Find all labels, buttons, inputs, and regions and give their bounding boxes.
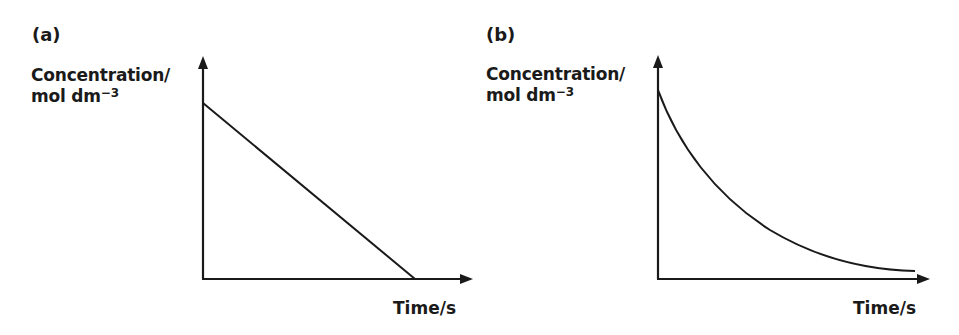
x-axis-arrow-icon (460, 274, 473, 284)
y-axis-arrow-icon (198, 56, 208, 69)
x-axis (202, 274, 473, 284)
x-axis-label: Time/s (853, 298, 916, 318)
y-axis-arrow-icon (653, 55, 663, 68)
panel-a-zero-order: (a) Concentration/ mol dm−3 Time/s (0, 0, 480, 335)
y-axis (653, 55, 663, 279)
data-line-linear-decrease (203, 103, 415, 279)
plot-area (480, 0, 959, 335)
x-axis-arrow-icon (917, 274, 930, 284)
y-axis (198, 56, 208, 279)
x-axis (657, 274, 930, 284)
data-curve-exponential-decay (658, 90, 915, 271)
x-axis-label: Time/s (393, 298, 456, 318)
plot-area (0, 0, 480, 335)
panel-b-first-order: (b) Concentration/ mol dm−3 Time/s (480, 0, 959, 335)
